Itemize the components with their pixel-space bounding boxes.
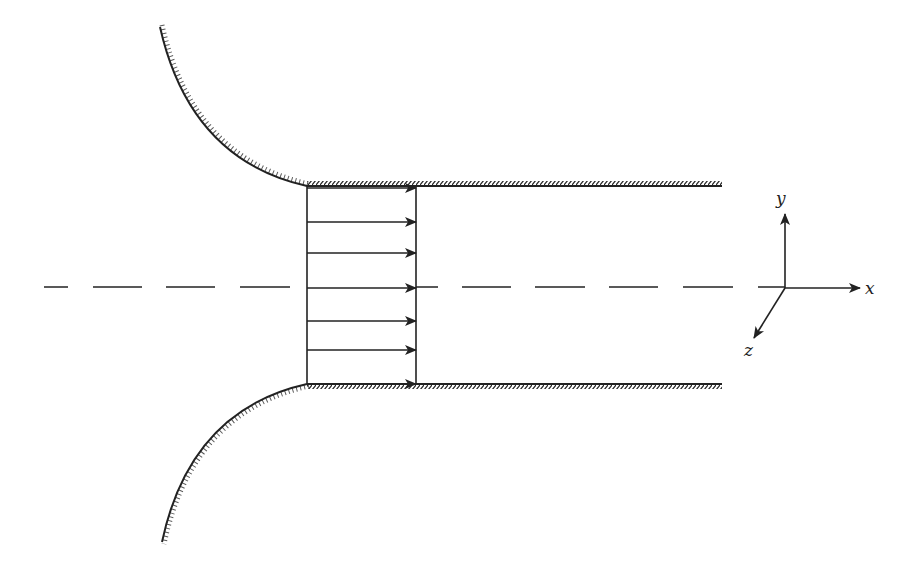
velocity-arrows [307,188,416,384]
top-channel-wall [307,181,722,186]
y-axis-label: y [775,188,786,208]
top-inlet-curved-wall [160,25,309,186]
bottom-inlet-curved-wall [162,384,309,544]
coordinate-axes [754,214,860,338]
z-axis-label: z [743,340,754,360]
channel-entrance-diagram: y x z [0,0,906,570]
x-axis-label: x [865,278,875,298]
z-axis-arrow [754,288,785,338]
